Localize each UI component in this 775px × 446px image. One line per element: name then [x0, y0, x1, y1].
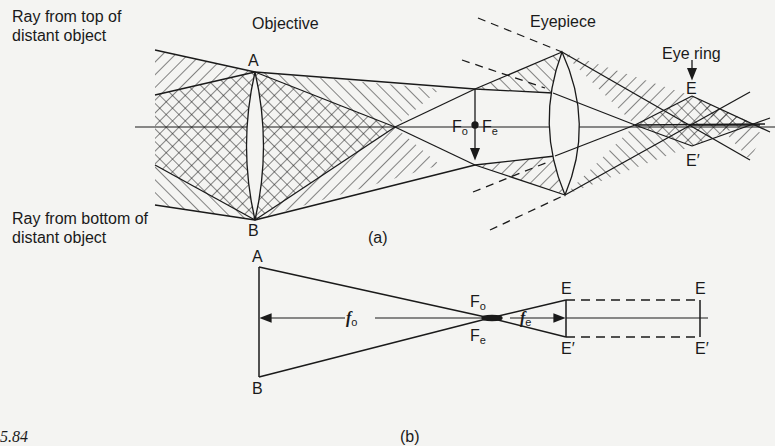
ray-bottom-label-line2: distant object: [12, 229, 106, 247]
part-b-label: (b): [400, 428, 420, 446]
b-point-e2-label: E: [695, 280, 706, 298]
eye-ring-label: Eye ring: [662, 45, 721, 63]
b-point-e-label: E: [561, 280, 572, 298]
b-point-e-prime-label: E′: [561, 340, 575, 358]
focus-fo-label: Fo: [452, 118, 468, 140]
ray-top-label-line2: distant object: [12, 27, 106, 45]
eyepiece-label: Eyepiece: [530, 13, 596, 31]
part-b-geometry: [259, 267, 708, 377]
point-a-label: A: [248, 52, 259, 70]
b-point-b-label: B: [252, 380, 263, 398]
figure-caption-fragment: 5.84: [0, 428, 28, 446]
part-a-label: (a): [368, 229, 388, 247]
ray-bottom-label-line1: Ray from bottom of: [12, 210, 148, 228]
point-b-label: B: [248, 222, 259, 240]
b-point-e2-prime-label: E′: [695, 340, 709, 358]
b-point-a-label: A: [252, 248, 263, 266]
b-focus-fe-label: Fe: [470, 327, 486, 349]
focus-fe-label: Fe: [482, 118, 498, 140]
point-e-prime-label: E′: [686, 152, 700, 170]
objective-label: Objective: [252, 15, 319, 33]
point-e-label: E: [686, 80, 697, 98]
ray-top-label-line1: Ray from top of: [12, 8, 121, 26]
b-focus-fo-label: Fo: [470, 293, 486, 315]
focal-length-fo-label: fo: [346, 309, 357, 331]
focal-length-fe-label: fe: [520, 309, 531, 331]
